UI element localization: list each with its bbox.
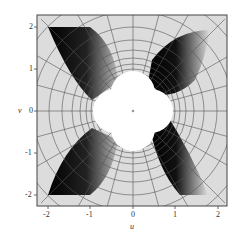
y-tick-label: 0 bbox=[29, 107, 33, 115]
x-tick-label: -1 bbox=[86, 211, 93, 219]
y-tick-label: -1 bbox=[25, 149, 32, 157]
x-tick-label: 1 bbox=[173, 211, 177, 219]
x-tick-label: 2 bbox=[216, 211, 220, 219]
x-axis-label: u bbox=[130, 222, 134, 231]
x-tick-label: -2 bbox=[43, 211, 50, 219]
y-axis-label: v bbox=[18, 106, 22, 115]
y-tick-label: 1 bbox=[29, 65, 33, 73]
chart-plot bbox=[0, 0, 242, 239]
y-tick-label: 2 bbox=[29, 23, 33, 31]
y-tick-label: -2 bbox=[25, 191, 32, 199]
center-marker bbox=[132, 110, 135, 113]
x-tick-label: 0 bbox=[131, 211, 135, 219]
